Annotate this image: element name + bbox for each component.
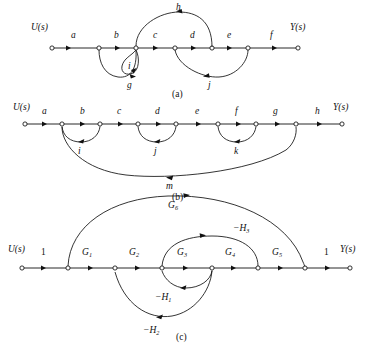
- node-b-1: [23, 122, 27, 126]
- node-c-8: [348, 266, 352, 270]
- branch-b-i: [62, 127, 100, 143]
- panel-a-branch-label-a: a: [71, 30, 76, 40]
- panel-c: U(s) Y(s) 1 G1 G2 G3 G4 G5 1 G6 −H3 −H1 …: [8, 193, 355, 343]
- arrowhead-a-a: [66, 46, 71, 51]
- node-a-4: [173, 46, 177, 50]
- arrowhead-c-g1: [88, 266, 93, 271]
- panel-c-input-label: U(s): [8, 244, 25, 255]
- arrowhead-b-j: [154, 139, 160, 144]
- panel-a-branch-label-g: g: [127, 80, 132, 90]
- panel-c-output-label: Y(s): [340, 244, 355, 255]
- node-a-3: [134, 46, 138, 50]
- signal-flow-graph-figure: U(s) Y(s) a b c d e f h i g j (a): [0, 0, 372, 352]
- arrowhead-b-f: [236, 122, 241, 127]
- node-b-4: [136, 122, 140, 126]
- node-a-7: [296, 46, 300, 50]
- arrowhead-c-h3: [200, 233, 206, 238]
- node-a-6: [246, 46, 250, 50]
- panel-b-branch-label-c: c: [117, 106, 122, 116]
- panel-a-branch-label-i: i: [128, 61, 131, 71]
- panel-b-branch-label-a: a: [42, 106, 47, 116]
- node-b-3: [98, 122, 102, 126]
- panel-a-input-label: U(s): [31, 22, 48, 33]
- branch-a-j: [175, 50, 248, 77]
- panel-b-branch-label-b: b: [80, 106, 85, 116]
- panel-a-branch-label-b: b: [114, 30, 119, 40]
- panel-a: U(s) Y(s) a b c d e f h i g j (a): [31, 2, 305, 100]
- panel-b-branch-label-i: i: [78, 146, 81, 156]
- node-c-6: [256, 266, 260, 270]
- arrowhead-c-h1: [180, 285, 186, 290]
- panel-b-branch-label-j: j: [152, 146, 157, 156]
- branch-b-k: [218, 127, 256, 143]
- panel-b-branch-label-m: m: [166, 181, 173, 191]
- panel-a-branch-label-f: f: [270, 30, 274, 40]
- panel-c-branch-label-g5: G5: [272, 247, 282, 258]
- panel-c-branch-label-h2: −H2: [143, 325, 159, 336]
- branch-c-h1: [162, 271, 212, 289]
- arrowhead-a-d: [191, 46, 196, 51]
- arrowhead-b-c: [118, 122, 123, 127]
- panel-a-branch-label-c: c: [153, 30, 158, 40]
- arrowhead-b-b: [80, 122, 85, 127]
- panel-b-branch-label-k: k: [234, 146, 239, 156]
- node-b-2: [60, 122, 64, 126]
- panel-a-caption: (a): [172, 89, 183, 100]
- node-c-3: [113, 266, 117, 270]
- panel-a-branch-label-h: h: [176, 2, 181, 12]
- arrowhead-c-out: [325, 266, 330, 271]
- panel-b-branch-label-h: h: [315, 106, 320, 116]
- arrowhead-c-g6: [183, 193, 190, 198]
- arrowhead-b-k: [234, 139, 240, 144]
- panel-c-caption: (c): [176, 332, 187, 343]
- node-a-1: [50, 46, 54, 50]
- node-a-2: [97, 46, 101, 50]
- node-b-9: [340, 122, 344, 126]
- node-b-8: [294, 122, 298, 126]
- node-c-7: [303, 266, 307, 270]
- panel-b-output-label: Y(s): [333, 102, 348, 113]
- node-c-1: [20, 266, 24, 270]
- panel-c-branch-label-g2: G2: [129, 247, 139, 258]
- panel-c-branch-label-h1: −H1: [155, 292, 171, 303]
- arrowhead-b-i: [78, 139, 84, 144]
- arrowhead-c-g4: [231, 266, 236, 271]
- arrowhead-b-h: [317, 122, 322, 127]
- panel-a-output-label: Y(s): [290, 22, 305, 33]
- node-b-5: [174, 122, 178, 126]
- panel-a-branch-label-d: d: [190, 30, 195, 40]
- panel-b-branch-label-g: g: [273, 106, 278, 116]
- branch-a-h: [136, 12, 212, 47]
- panel-b-branch-label-d: d: [155, 106, 160, 116]
- arrowhead-b-g: [275, 122, 280, 127]
- arrowhead-c-g3: [183, 266, 188, 271]
- node-c-5: [210, 266, 214, 270]
- panel-c-branch-label-g1: G1: [82, 247, 92, 258]
- panel-a-branch-label-j: j: [206, 80, 211, 90]
- arrowhead-c-g5: [278, 266, 283, 271]
- arrowhead-a-e: [227, 46, 232, 51]
- branch-b-j: [138, 127, 176, 143]
- node-c-4: [160, 266, 164, 270]
- panel-a-branch-label-e: e: [227, 30, 231, 40]
- arrowhead-c-g2: [135, 266, 140, 271]
- panel-c-branch-label-1-in: 1: [41, 247, 46, 257]
- panel-b-branch-label-f: f: [235, 106, 239, 116]
- arrowhead-c-h2: [156, 315, 163, 320]
- arrowhead-a-f: [272, 46, 277, 51]
- arrowhead-a-g: [130, 74, 136, 79]
- panel-b: U(s) Y(s) a b c d e f g h i j k m (b): [13, 102, 348, 203]
- arrowhead-c-1: [41, 266, 46, 271]
- panel-b-branch-label-e: e: [195, 106, 199, 116]
- panel-c-branch-label-g3: G3: [177, 247, 187, 258]
- panel-b-input-label: U(s): [13, 102, 30, 113]
- arrowhead-a-c: [153, 46, 158, 51]
- arrowhead-b-d: [156, 122, 161, 127]
- arrowhead-a-b: [115, 46, 120, 51]
- arrowhead-b-a: [42, 122, 47, 127]
- panel-c-branch-label-h3: −H3: [233, 223, 249, 234]
- node-b-6: [216, 122, 220, 126]
- node-c-2: [66, 266, 70, 270]
- node-b-7: [254, 122, 258, 126]
- arrowhead-b-e: [196, 122, 201, 127]
